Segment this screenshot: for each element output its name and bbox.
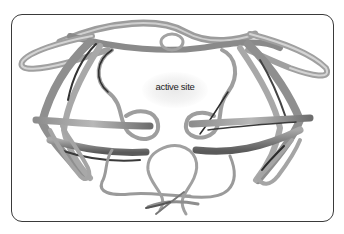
protein-ribbon-diagram (0, 0, 344, 234)
lower-left-loop (101, 150, 190, 196)
lower-right-loop (184, 156, 234, 197)
left-horizontal-strand (36, 120, 150, 126)
active-site-label: active site (140, 81, 210, 92)
